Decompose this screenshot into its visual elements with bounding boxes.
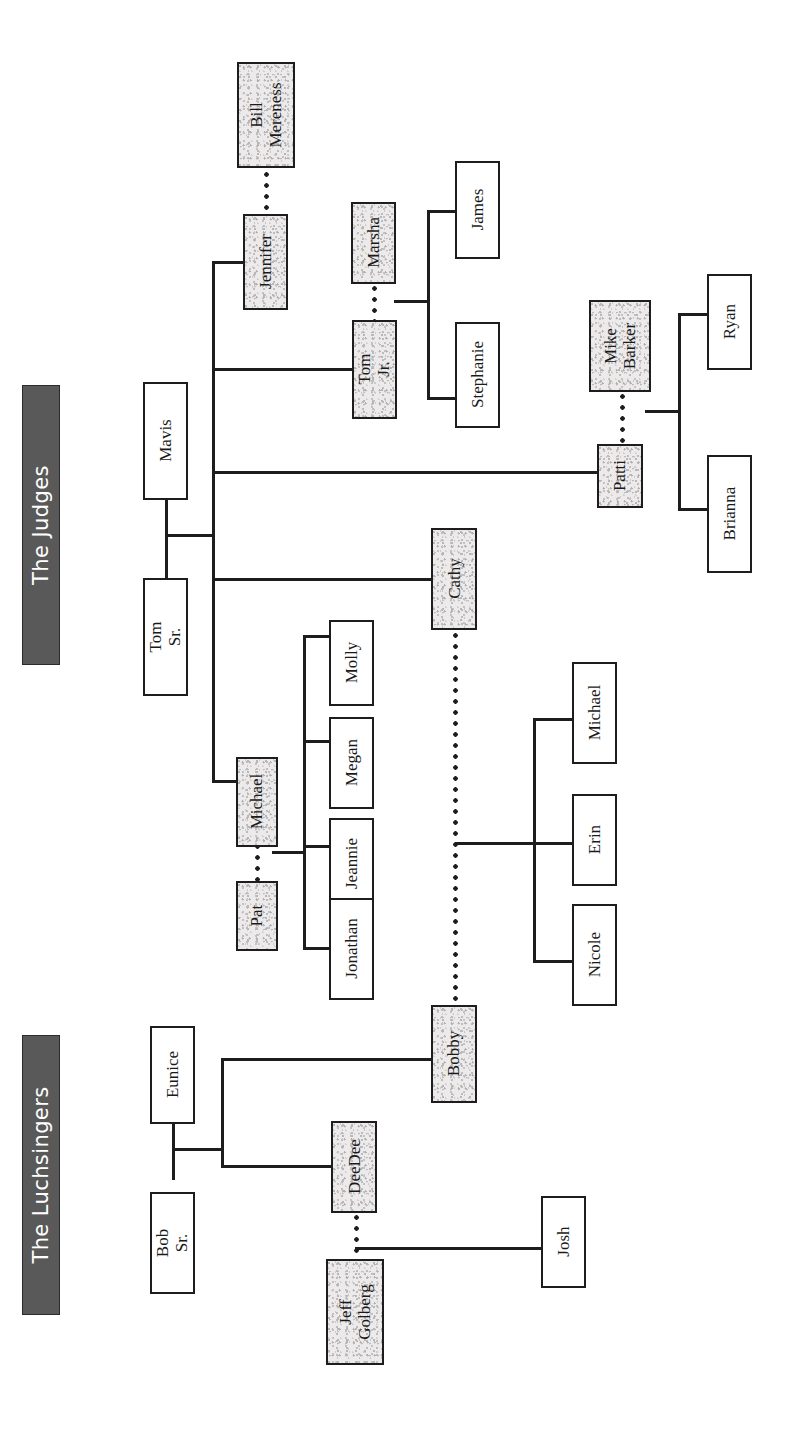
branch-to-patti (212, 471, 597, 474)
branch-to-cathy (212, 578, 436, 581)
person-label-jennifer: Jennifer (256, 235, 275, 290)
person-box-deedee[interactable]: DeeDee (331, 1121, 377, 1213)
person-label-patti: Patti (610, 460, 629, 491)
branch-to-bobby (221, 1058, 433, 1061)
person-box-josh[interactable]: Josh (541, 1196, 586, 1288)
person-box-marsha[interactable]: Marsha (351, 202, 396, 284)
branch-to-stephanie (427, 397, 457, 400)
person-box-patti[interactable]: Patti (597, 444, 643, 508)
person-box-michael-parent[interactable]: Michael (236, 757, 278, 847)
person-box-mike-barker[interactable]: Mike Barker (589, 300, 651, 392)
stem-michael-pat-children (272, 851, 306, 854)
person-box-cathy[interactable]: Cathy (431, 528, 477, 630)
branch-to-ryan (678, 313, 708, 316)
branch-to-brianna (678, 508, 708, 511)
person-box-erin[interactable]: Erin (572, 794, 617, 886)
person-label-mavis: Mavis (156, 420, 175, 463)
connector-luchsingers-parent-stem (172, 1148, 224, 1151)
sibling-bus-judges (212, 261, 215, 783)
person-box-ryan[interactable]: Ryan (707, 274, 752, 370)
person-label-megan: Megan (342, 739, 361, 786)
person-label-ryan: Ryan (720, 304, 739, 339)
person-box-brianna[interactable]: Brianna (707, 455, 752, 573)
person-label-josh: Josh (554, 1227, 573, 1257)
branch-to-james (427, 210, 457, 213)
person-box-michael-child[interactable]: Michael (572, 662, 617, 764)
stem-cathy-bobby-children (455, 842, 536, 845)
stem-tomjr-marsha-children (394, 300, 430, 303)
person-label-jeannie: Jeannie (342, 839, 361, 890)
branch-to-tomjr (212, 368, 355, 371)
branch-to-michael (212, 780, 237, 783)
branch-to-jennifer (212, 261, 247, 264)
person-box-jennifer[interactable]: Jennifer (243, 214, 288, 310)
person-label-jeff-golberg: Jeff Golberg (336, 1284, 374, 1339)
person-label-pat: Pat (247, 905, 266, 927)
section-banner-luchsingers: The Luchsingers (22, 1035, 60, 1315)
person-label-tom-jr: Tom Jr. (355, 349, 393, 390)
person-label-mike-barker: Mike Barker (601, 323, 639, 369)
person-box-pat[interactable]: Pat (236, 881, 278, 951)
stem-deedee-jeff-children (355, 1247, 545, 1250)
person-box-tom-sr[interactable]: Tom Sr. (143, 578, 188, 696)
branch-to-erin (533, 842, 573, 845)
person-label-bobby: Bobby (444, 1031, 463, 1076)
person-label-cathy: Cathy (444, 559, 463, 600)
person-label-erin: Erin (585, 825, 604, 854)
person-box-megan[interactable]: Megan (329, 717, 374, 809)
dotted-connector-cathy-bobby (453, 630, 458, 1005)
sibling-bus-luchsingers (221, 1058, 224, 1168)
person-label-bill-mereness: Bill Mereness (247, 82, 285, 147)
sibling-bus-tomjr-marsha (427, 210, 430, 400)
person-box-tom-jr[interactable]: Tom Jr. (352, 320, 397, 419)
person-box-james[interactable]: James (455, 161, 500, 259)
person-label-michael-parent: Michael (247, 774, 266, 830)
sibling-bus-cathy-bobby (533, 718, 536, 963)
person-box-eunice[interactable]: Eunice (150, 1026, 195, 1124)
family-tree-diagram: The Judges The Luchsingers (0, 0, 793, 1439)
person-box-bill-mereness[interactable]: Bill Mereness (237, 62, 295, 168)
person-label-stephanie: Stephanie (468, 341, 487, 408)
section-banner-luchsingers-label: The Luchsingers (29, 1086, 53, 1263)
person-label-deedee: DeeDee (344, 1140, 363, 1195)
person-box-stephanie[interactable]: Stephanie (455, 322, 500, 428)
person-box-nicole[interactable]: Nicole (572, 904, 617, 1006)
person-label-tom-sr: Tom Sr. (146, 617, 184, 658)
section-banner-judges: The Judges (22, 385, 60, 665)
branch-to-molly (303, 635, 330, 638)
branch-to-jeannie (303, 845, 330, 848)
dotted-connector-bill-jennifer (264, 169, 269, 215)
dotted-connector-deedee-jeff (354, 1212, 359, 1260)
person-label-marsha: Marsha (364, 218, 383, 269)
branch-to-deedee (221, 1165, 331, 1168)
person-box-bob-sr[interactable]: Bob Sr. (150, 1192, 195, 1294)
section-banner-judges-label: The Judges (29, 465, 53, 585)
branch-to-jonathan (303, 947, 330, 950)
person-box-jonathan[interactable]: Jonathan (329, 898, 374, 1000)
person-box-jeannie[interactable]: Jeannie (329, 818, 374, 910)
person-box-molly[interactable]: Molly (329, 620, 374, 706)
person-label-jonathan: Jonathan (342, 919, 361, 979)
branch-to-michael-child (533, 718, 573, 721)
connector-judges-parent-stem (165, 534, 215, 537)
dotted-connector-marsha-tomjr (372, 283, 377, 321)
connector-mavis-tomsr (165, 500, 168, 580)
person-box-mavis[interactable]: Mavis (143, 382, 188, 500)
person-label-eunice: Eunice (163, 1051, 182, 1098)
person-label-bob-sr: Bob Sr. (153, 1223, 191, 1264)
person-label-michael-child: Michael (585, 685, 604, 741)
sibling-bus-michael-pat (303, 635, 306, 950)
person-label-molly: Molly (342, 642, 361, 684)
person-label-nicole: Nicole (585, 932, 604, 977)
person-label-james: James (468, 189, 487, 231)
person-box-bobby[interactable]: Bobby (431, 1005, 477, 1103)
branch-to-megan (303, 740, 330, 743)
dotted-connector-mike-patti (620, 391, 625, 447)
branch-to-nicole (533, 960, 573, 963)
stem-patti-mike-children (645, 410, 681, 413)
person-box-jeff-golberg[interactable]: Jeff Golberg (326, 1259, 384, 1365)
person-label-brianna: Brianna (720, 487, 739, 541)
